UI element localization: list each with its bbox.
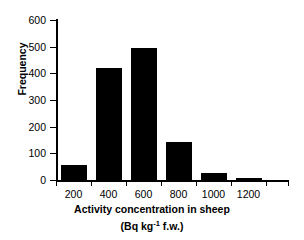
- bar-800: [166, 142, 192, 180]
- y-tick-100: [50, 153, 56, 154]
- y-tick-200: [50, 127, 56, 128]
- x-tick-label-1000: 1000: [194, 188, 234, 200]
- y-tick-300: [50, 100, 56, 101]
- bar-200: [61, 165, 87, 180]
- y-tick-label-300: 300: [6, 95, 46, 106]
- x-axis-title-line2: (Bq kg-1 f.w.): [0, 220, 304, 232]
- x-tick-boundary-4: [196, 181, 197, 186]
- x-tick-boundary-0: [56, 181, 57, 186]
- x-tick-boundary-5: [231, 181, 232, 186]
- x-tick-boundary-3: [161, 181, 162, 186]
- y-tick-label-600: 600: [6, 15, 46, 26]
- y-tick-400: [50, 73, 56, 74]
- y-tick-label-0: 0: [6, 175, 46, 186]
- y-tick-500: [50, 47, 56, 48]
- bar-400: [96, 68, 122, 180]
- x-tick-boundary-7: [288, 181, 289, 186]
- x-tick-label-400: 400: [89, 188, 129, 200]
- bar-1000: [201, 173, 227, 180]
- x-axis-unit-prefix: (Bq kg: [121, 220, 154, 232]
- x-tick-boundary-6: [266, 181, 267, 186]
- x-axis-unit-suffix: f.w.): [160, 220, 184, 232]
- x-tick-label-800: 800: [159, 188, 199, 200]
- bar-600: [131, 48, 157, 181]
- histogram-figure: Frequency 600 500 400 300 200 100 0 200 …: [0, 0, 304, 240]
- x-tick-label-1200: 1200: [229, 188, 269, 200]
- y-tick-label-200: 200: [6, 122, 46, 133]
- y-tick-label-100: 100: [6, 148, 46, 159]
- x-tick-label-600: 600: [124, 188, 164, 200]
- y-tick-label-400: 400: [6, 68, 46, 79]
- x-axis-unit-exponent: -1: [153, 219, 160, 228]
- x-tick-label-200: 200: [54, 188, 94, 200]
- y-tick-600: [50, 20, 56, 21]
- x-tick-boundary-1: [91, 181, 92, 186]
- x-axis-title-line1: Activity concentration in sheep: [0, 203, 304, 215]
- y-tick-label-500: 500: [6, 42, 46, 53]
- x-tick-boundary-2: [126, 181, 127, 186]
- y-axis-line: [56, 19, 58, 181]
- bar-1200: [236, 178, 262, 180]
